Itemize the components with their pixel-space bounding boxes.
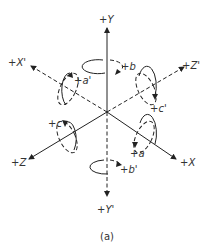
label-plus-y: +Y [99,14,114,25]
label-plus-x: +X [180,157,196,168]
rotation-b-prime-arrow-icon [90,160,122,174]
rotation-c-prime-arrow-icon [132,66,161,108]
label-rotation-c-prime: +c' [150,103,167,114]
label-rotation-b: +b [121,61,136,72]
rotation-axes-diagram: +Y +Y' +X +X' +Z +Z' +b +b' +a +a' +c +c… [0,0,207,252]
label-plus-z-prime: +Z' [182,60,200,71]
label-plus-y-prime: +Y' [97,204,114,215]
label-rotation-b-prime: +b' [120,164,137,175]
axis-plus-z-prime [107,67,184,112]
figure-caption: (a) [100,231,114,242]
label-plus-z: +Z [11,157,27,168]
rotation-b-arrow-icon [82,60,123,75]
label-rotation-a: +a [130,148,145,159]
axis-plus-z [29,112,107,159]
label-plus-x-prime: +X' [8,57,26,68]
label-rotation-a-prime: +a' [74,75,91,86]
label-rotation-c: +c [48,118,62,129]
